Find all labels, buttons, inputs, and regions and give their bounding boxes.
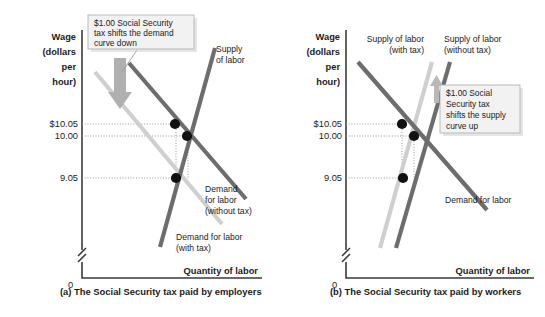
panel-a-x-axis-label: Quantity of labor (184, 266, 259, 276)
panel-a-callout-line-2: tax shifts the demand (94, 28, 174, 38)
panel-a-point-1000 (182, 131, 192, 141)
panel-a-point-1005 (170, 119, 180, 129)
y-axis-label-line-2: (dollars (42, 47, 76, 57)
panel-a-demand-wo-line-2: for labor (205, 195, 237, 205)
panel-b-label-demand: Demand for labor (445, 195, 512, 205)
panel-a-callout: $1.00 Social Security tax shifts the dem… (88, 15, 197, 52)
panel-a-label-demand-without-tax: Demand for labor (without tax) (205, 184, 252, 216)
panel-b-axis-break (342, 248, 350, 262)
panel-b-callout-line-1: $1.00 Social (446, 88, 492, 98)
panel-a-employers: Wage (dollars per hour) $10.05 10.00 9. (0, 0, 272, 317)
panel-a-demand-wt-line-2: (with tax) (176, 243, 211, 253)
panel-b-supply-wo-line-1: Supply of labor (444, 34, 501, 44)
panel-b-point-1005 (397, 119, 407, 129)
y-axis-label-line-1: Wage (52, 32, 76, 42)
panel-a-caption: (a) The Social Security tax paid by empl… (60, 286, 262, 297)
y-axis-label-line-1: Wage (316, 32, 340, 42)
panel-b-supply-wo-line-2: (without tax) (444, 45, 491, 55)
panel-b-callout-line-4: curve up (446, 121, 478, 131)
panel-b-callout-line-2: Security tax (446, 99, 491, 109)
panel-a-demand-wo-line-3: (without tax) (205, 206, 252, 216)
panel-a-tick-905: 9.05 (60, 173, 78, 183)
panel-b-y-axis-label: Wage (dollars per hour) (306, 32, 340, 87)
panel-b-x-axis-label: Quantity of labor (456, 266, 531, 276)
panel-a-supply-label-line-2: of labor (216, 55, 245, 65)
panel-b-caption: (b) The Social Security tax paid by work… (330, 286, 521, 297)
panel-b-tick-905: 9.05 (324, 173, 342, 183)
panel-b-chart: Wage (dollars per hour) $10.05 10.00 9.0… (272, 0, 545, 317)
panel-a-curve-supply (160, 48, 215, 247)
shift-down-arrow-icon (108, 58, 132, 109)
panel-a-label-supply-of-labor: Supply of labor (216, 44, 245, 65)
social-security-tax-figure: Wage (dollars per hour) $10.05 10.00 9. (0, 0, 545, 317)
y-axis-label-line-4: hour) (52, 77, 76, 87)
panel-b-supply-wt-line-1: Supply of labor (367, 34, 424, 44)
panel-b-label-supply-without-tax: Supply of labor (without tax) (444, 34, 501, 55)
panel-b-point-905 (398, 173, 408, 183)
panel-a-callout-line-1: $1.00 Social Security (94, 18, 173, 28)
panel-a-axis-break (78, 248, 86, 262)
panel-a-demand-wo-line-1: Demand (205, 184, 238, 194)
panel-a-chart: Wage (dollars per hour) $10.05 10.00 9. (0, 0, 272, 317)
panel-a-tick-1005: $10.05 (50, 119, 78, 129)
panel-a-callout-line-3: curve down (94, 38, 137, 48)
panel-a-demand-wt-line-1: Demand for labor (176, 232, 243, 242)
y-axis-label-line-3: per (326, 62, 341, 72)
panel-a-tick-1000: 10.00 (55, 131, 78, 141)
panel-a-supply-label-line-1: Supply (216, 44, 243, 54)
panel-b-tick-1005: $10.05 (314, 119, 342, 129)
panel-b-workers: Wage (dollars per hour) $10.05 10.00 9.0… (272, 0, 544, 317)
panel-a-y-axis-label: Wage (dollars per hour) (42, 32, 76, 87)
panel-a-point-905 (171, 173, 181, 183)
y-axis-label-line-3: per (62, 62, 77, 72)
y-axis-label-line-4: hour) (316, 77, 340, 87)
panel-b-label-supply-with-tax: Supply of labor (with tax) (367, 34, 424, 55)
panel-a-label-demand-with-tax: Demand for labor (with tax) (176, 232, 243, 253)
panel-b-callout-line-3: shifts the supply (446, 110, 507, 120)
panel-b-tick-1000: 10.00 (319, 131, 342, 141)
panel-b-supply-wt-line-2: (with tax) (389, 45, 424, 55)
panel-b-callout: $1.00 Social Security tax shifts the sup… (440, 85, 523, 136)
y-axis-label-line-2: (dollars (306, 47, 340, 57)
panel-b-point-1000 (409, 131, 419, 141)
